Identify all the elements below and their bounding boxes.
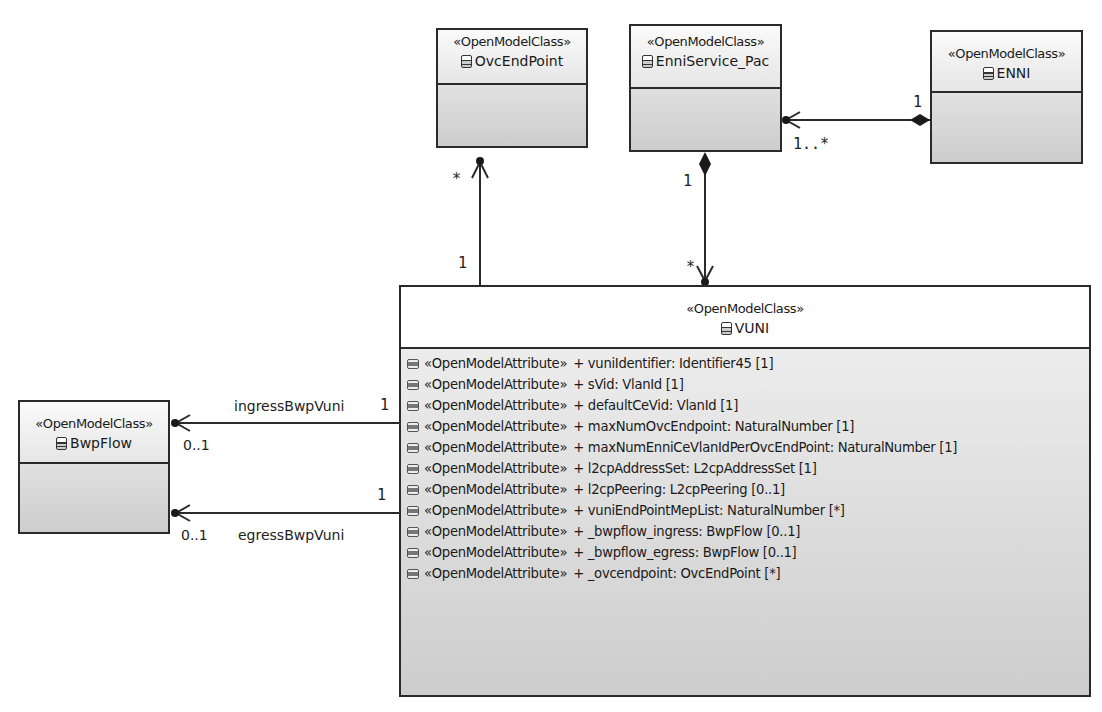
multiplicity-enniservice-target: * <box>686 258 695 276</box>
multiplicity-ingress-source: 1 <box>380 396 389 414</box>
attribute-text: + defaultCeVid: VlanId [1] <box>573 395 738 416</box>
class-bwpflow[interactable]: «OpenModelClass» BwpFlow <box>18 400 170 534</box>
attribute-text: + sVid: VlanId [1] <box>573 374 683 395</box>
class-name: ENNI <box>997 63 1031 83</box>
class-header: «OpenModelClass» ENNI <box>932 32 1081 93</box>
attribute-list: «OpenModelAttribute»+ vuniIdentifier: Id… <box>401 349 1089 584</box>
role-ingress-bwp-vuni: ingressBwpVuni <box>234 398 345 414</box>
class-header: «OpenModelClass» BwpFlow <box>20 402 168 464</box>
attribute-stereotype: «OpenModelAttribute» <box>424 416 567 437</box>
multiplicity-ovc-source: 1 <box>458 254 467 272</box>
multiplicity-egress-target: 0..1 <box>181 527 208 543</box>
class-icon <box>642 55 653 68</box>
attribute-icon <box>407 422 419 432</box>
attribute-stereotype: «OpenModelAttribute» <box>424 500 567 521</box>
attribute-text: + _bwpflow_egress: BwpFlow [0..1] <box>573 542 796 563</box>
multiplicity-ovc-target: * <box>452 170 461 188</box>
class-icon <box>983 67 994 80</box>
attribute-stereotype: «OpenModelAttribute» <box>424 479 567 500</box>
attribute-row[interactable]: «OpenModelAttribute»+ _ovcendpoint: OvcE… <box>407 563 1089 584</box>
attribute-stereotype: «OpenModelAttribute» <box>424 458 567 479</box>
class-icon <box>56 437 67 450</box>
attribute-stereotype: «OpenModelAttribute» <box>424 395 567 416</box>
attribute-icon <box>407 527 419 537</box>
class-stereotype: «OpenModelClass» <box>932 45 1081 63</box>
class-name: VUNI <box>735 318 769 338</box>
attribute-text: + maxNumEnniCeVlanIdPerOvcEndPoint: Natu… <box>573 437 957 458</box>
attribute-row[interactable]: «OpenModelAttribute»+ defaultCeVid: Vlan… <box>407 395 1089 416</box>
role-egress-bwp-vuni: egressBwpVuni <box>238 527 344 543</box>
class-name: EnniService_Pac <box>656 51 769 71</box>
attribute-icon <box>407 485 419 495</box>
attribute-text: + vuniEndPointMepList: NaturalNumber [*] <box>573 500 844 521</box>
class-stereotype: «OpenModelClass» <box>631 33 780 51</box>
attribute-stereotype: «OpenModelAttribute» <box>424 437 567 458</box>
attribute-text: + vuniIdentifier: Identifier45 [1] <box>573 353 773 374</box>
attribute-icon <box>407 506 419 516</box>
multiplicity-egress-source: 1 <box>377 486 386 504</box>
attribute-row[interactable]: «OpenModelAttribute»+ maxNumOvcEndpoint:… <box>407 416 1089 437</box>
class-header: «OpenModelClass» OvcEndPoint <box>438 30 586 85</box>
attribute-row[interactable]: «OpenModelAttribute»+ vuniIdentifier: Id… <box>407 353 1089 374</box>
class-icon <box>721 322 732 335</box>
attribute-text: + _bwpflow_ingress: BwpFlow [0..1] <box>573 521 800 542</box>
attribute-row[interactable]: «OpenModelAttribute»+ vuniEndPointMepLis… <box>407 500 1089 521</box>
class-enniservice-pac[interactable]: «OpenModelClass» EnniService_Pac <box>629 24 782 152</box>
multiplicity-enni-source: 1 <box>913 93 922 111</box>
class-stereotype: «OpenModelClass» <box>438 33 586 51</box>
attribute-text: + _ovcendpoint: OvcEndPoint [*] <box>573 563 780 584</box>
attribute-icon <box>407 401 419 411</box>
class-name: OvcEndPoint <box>475 51 563 71</box>
class-stereotype: «OpenModelClass» <box>401 300 1089 318</box>
class-header: «OpenModelClass» EnniService_Pac <box>631 26 780 89</box>
class-stereotype: «OpenModelClass» <box>20 415 168 433</box>
class-enni[interactable]: «OpenModelClass» ENNI <box>930 30 1083 164</box>
attribute-icon <box>407 464 419 474</box>
attribute-row[interactable]: «OpenModelAttribute»+ maxNumEnniCeVlanId… <box>407 437 1089 458</box>
class-header: «OpenModelClass» VUNI <box>401 287 1089 349</box>
multiplicity-enniservice-source: 1 <box>683 172 692 190</box>
attribute-stereotype: «OpenModelAttribute» <box>424 521 567 542</box>
attribute-stereotype: «OpenModelAttribute» <box>424 563 567 584</box>
attribute-icon <box>407 359 419 369</box>
attribute-text: + l2cpPeering: L2cpPeering [0..1] <box>573 479 785 500</box>
attribute-icon <box>407 443 419 453</box>
attribute-stereotype: «OpenModelAttribute» <box>424 353 567 374</box>
attribute-row[interactable]: «OpenModelAttribute»+ l2cpPeering: L2cpP… <box>407 479 1089 500</box>
attribute-text: + l2cpAddressSet: L2cpAddressSet [1] <box>573 458 816 479</box>
attribute-icon <box>407 380 419 390</box>
attribute-row[interactable]: «OpenModelAttribute»+ _bwpflow_ingress: … <box>407 521 1089 542</box>
multiplicity-ingress-target: 0..1 <box>183 437 210 453</box>
attribute-stereotype: «OpenModelAttribute» <box>424 542 567 563</box>
attribute-row[interactable]: «OpenModelAttribute»+ l2cpAddressSet: L2… <box>407 458 1089 479</box>
attribute-row[interactable]: «OpenModelAttribute»+ _bwpflow_egress: B… <box>407 542 1089 563</box>
attribute-text: + maxNumOvcEndpoint: NaturalNumber [1] <box>573 416 854 437</box>
class-ovcendpoint[interactable]: «OpenModelClass» OvcEndPoint <box>436 28 588 148</box>
multiplicity-enni-target: 1..* <box>793 135 829 153</box>
attribute-icon <box>407 548 419 558</box>
attribute-icon <box>407 569 419 579</box>
attribute-stereotype: «OpenModelAttribute» <box>424 374 567 395</box>
class-name: BwpFlow <box>70 433 132 453</box>
attribute-row[interactable]: «OpenModelAttribute»+ sVid: VlanId [1] <box>407 374 1089 395</box>
class-icon <box>461 55 472 68</box>
class-vuni[interactable]: «OpenModelClass» VUNI «OpenModelAttribut… <box>399 285 1091 697</box>
